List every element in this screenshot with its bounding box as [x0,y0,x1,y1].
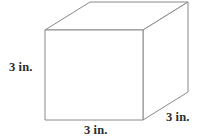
cube-front-face [45,30,143,120]
dimension-label-width: 3 in. [84,124,107,137]
cube-diagram-figure: 3 in. 3 in. 3 in. [0,0,200,140]
dimension-label-height: 3 in. [9,61,32,74]
dimension-label-depth: 3 in. [166,111,189,124]
